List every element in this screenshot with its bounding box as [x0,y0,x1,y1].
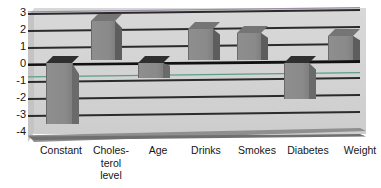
plot-area [28,8,366,142]
x-tick-line: Diabetes [277,144,339,157]
y-tick-label: 3 [4,7,26,17]
y-tick-label: -4 [4,126,26,136]
bar-cholesterol-level [91,21,115,60]
x-tick-line: level [80,169,142,182]
bar-front-face [138,63,164,78]
bar-age [138,63,163,78]
bar-front-face [91,21,116,60]
x-tick-line: Weight [332,144,381,157]
bar-front-face [46,63,73,124]
x-tick-label-diabetes: Diabetes [277,144,339,157]
y-tick-label: 2 [4,24,26,34]
bar-constant [46,63,72,124]
y-tick-label: 0 [4,58,26,68]
x-tick-line: Drinks [177,144,235,157]
y-axis: 3 2 1 0 -1 -2 -3 -4 [0,0,26,188]
x-tick-label-weight: Weight [332,144,381,157]
bar-front-face [284,63,310,99]
y-tick-label: -2 [4,92,26,102]
bar-front-face [328,36,354,60]
y-tick-label: -3 [4,109,26,119]
x-axis: Constant Choles- terol level Age Drinks … [28,144,366,188]
bar-front-face [188,29,214,60]
y-tick-label: 1 [4,41,26,51]
bar-drinks [188,29,213,60]
x-tick-line: terol [80,157,142,170]
bar-smokes [237,33,261,60]
bar-diabetes [284,63,309,99]
bar-weight [328,36,353,60]
y-tick-label: -1 [4,75,26,85]
bar-front-face [237,33,262,60]
x-tick-label-drinks: Drinks [177,144,235,157]
